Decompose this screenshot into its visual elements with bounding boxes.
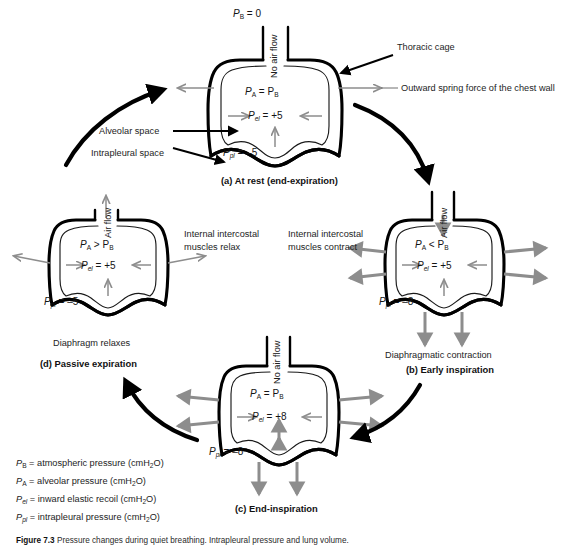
panel-b-side-note-line2: muscles contract: [288, 242, 357, 252]
legend-item-1: PA = alveolar pressure (cmH2O): [16, 476, 146, 487]
panel-b-expansion-arrow-right-lower: [504, 274, 546, 278]
panel-d-pa-pb-label: PA > PB: [80, 239, 114, 251]
outward-spring-label: Outward spring force of the chest wall: [401, 83, 555, 93]
panel-c-expansion-arrow-right-lower: [339, 422, 382, 426]
figure-caption-number: Figure 7.3: [16, 536, 55, 545]
thoracic-cage-label: Thoracic cage: [397, 42, 455, 52]
panel-c-airflow-label: No air flow: [272, 340, 282, 384]
pb-top-label: PB = 0: [233, 8, 261, 20]
cycle-arrow-c-to-d: [126, 382, 197, 440]
panel-d-caption: (d) Passive expiration: [40, 358, 137, 369]
panel-c-pa-pb-label: PA = PB: [250, 388, 284, 400]
panel-d-side-note-line1: Internal intercostal: [184, 229, 259, 239]
panel-b-expansion-arrow-left-lower: [350, 274, 386, 278]
panel-c-expansion-arrow-left-upper: [178, 396, 219, 400]
panel-d-bottom-note: Diaphragm relaxes: [53, 338, 131, 348]
panel-d-pel-label: Pel = +5: [81, 260, 116, 272]
panel-d-outward-arrow-left: [14, 256, 50, 263]
panel-b-ppl-label: Ppl = –8: [379, 296, 414, 309]
legend-item-2: Pel = inward elastic recoil (cmH2O): [16, 494, 156, 505]
panel-a-group: [178, 27, 398, 166]
panel-c-ppl-label: Ppl = –8: [209, 446, 244, 459]
panel-b-airflow-label: Air flow: [439, 208, 449, 238]
panel-b-pel-label: Pel = +5: [417, 260, 452, 272]
panel-b-expansion-arrow-right-upper: [504, 248, 546, 252]
panel-b-pa-pb-label: PA < PB: [415, 239, 449, 251]
panel-a-pa-pb-label: PA = PB: [245, 86, 279, 98]
panel-d-ppl-label: Ppl = –5: [44, 296, 79, 309]
legend-item-0: PB = atmospheric pressure (cmH2O): [16, 458, 164, 469]
alveolar-space-label: Alveolar space: [99, 126, 159, 136]
panel-a-airflow-label: No air flow: [269, 34, 279, 78]
panel-a-caption: (a) At rest (end-expiration): [221, 175, 338, 186]
panel-d-side-note-line2: muscles relax: [184, 242, 241, 252]
panel-c-expansion-arrow-right-upper: [339, 396, 382, 400]
panel-b-caption: (b) Early inspiration: [406, 364, 494, 375]
panel-b-side-note-line1: Internal intercostal: [288, 229, 363, 239]
panel-a-pel-label: Pel = +5: [248, 110, 283, 122]
cycle-arrow-b-to-c: [355, 385, 420, 437]
panel-c-caption: (c) End-inspiration: [235, 503, 318, 514]
legend-item-3: Ppl = intrapleural pressure (cmH2O): [16, 512, 160, 524]
thoracic-cage-pointer: [341, 55, 393, 73]
panel-a-ppl-label: Ppl = –5: [223, 147, 258, 160]
panel-d-outward-arrow-right: [168, 256, 205, 263]
cycle-arrow-a-to-b: [355, 105, 428, 180]
panel-c-expansion-arrow-left-lower: [178, 422, 219, 426]
intrapleural-space-label: Intrapleural space: [91, 148, 164, 158]
panel-d-airflow-label: Air flow: [103, 208, 113, 238]
panel-c-pel-label: Pel = +8: [252, 411, 287, 423]
panel-b-bottom-note: Diaphragmatic contraction: [385, 350, 492, 360]
respiratory-cycle-figure: PB = 0 No air flow PA = PB Pel = +5 Ppl …: [0, 0, 571, 545]
figure-caption: Figure 7.3 Pressure changes during quiet…: [16, 536, 349, 545]
